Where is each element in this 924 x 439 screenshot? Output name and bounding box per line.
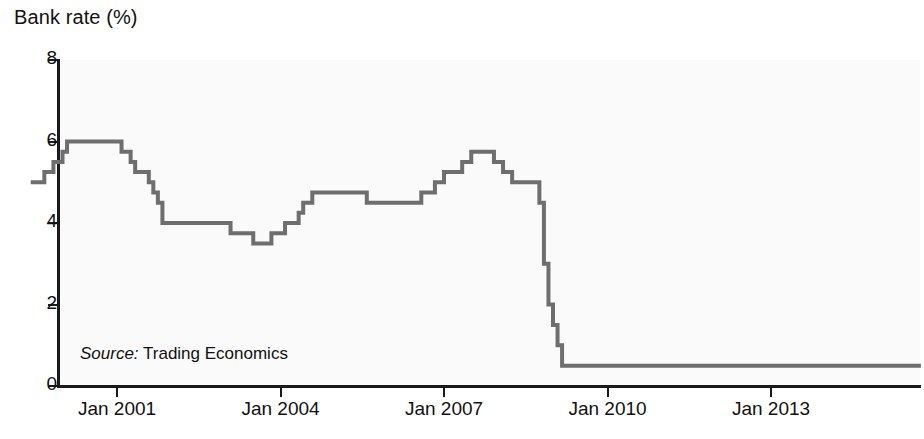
bank-rate-line	[31, 142, 921, 366]
bank-rate-chart-figure: Bank rate (%) 02468 Jan 2001Jan 2004Jan …	[0, 0, 924, 439]
source-text: Trading Economics	[143, 344, 288, 363]
source-label: Source:	[80, 344, 139, 363]
bank-rate-series	[0, 0, 924, 439]
source-note: Source: Trading Economics	[80, 344, 288, 364]
